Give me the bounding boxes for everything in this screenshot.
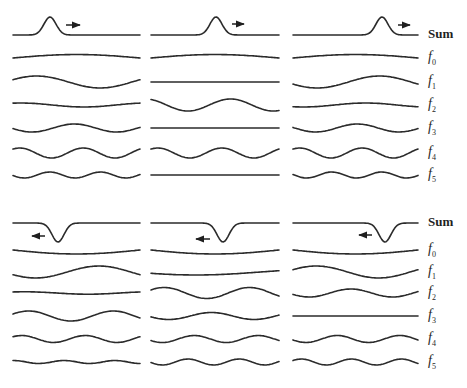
top-f2-curve-col2: [151, 99, 279, 111]
top-f2-curve-col3: [293, 103, 418, 107]
top-label-f5: f5: [428, 167, 436, 187]
label-subscript: 1: [432, 82, 436, 91]
bottom-f4-curve-col1: [13, 336, 140, 343]
top-label-f0: f0: [428, 50, 436, 70]
label-subscript: 3: [432, 316, 436, 325]
label-subscript: 2: [432, 105, 436, 114]
top-label-f1: f1: [428, 74, 436, 94]
top-label-f4: f4: [428, 145, 436, 165]
bottom-label-f4: f4: [428, 331, 436, 351]
top-f0-curve-col1: [13, 55, 140, 59]
top-label-f3: f3: [428, 120, 436, 140]
bottom-f0-curve-col2: [151, 250, 279, 254]
label-subscript: 1: [432, 272, 436, 281]
label-subscript: 0: [432, 250, 436, 259]
bottom-f5-curve-col3: [293, 359, 418, 365]
fourier-pulse-diagram: [0, 0, 467, 388]
bottom-label-f5: f5: [428, 354, 436, 374]
label-subscript: 2: [432, 293, 436, 302]
top-f5-curve-col3: [293, 172, 418, 178]
top-f5-curve-col1: [13, 172, 140, 178]
bottom-f4-curve-col3: [293, 336, 418, 343]
bottom-label-f2: f2: [428, 285, 436, 305]
bottom-f0-curve-col3: [293, 250, 418, 254]
label-subscript: 5: [432, 362, 436, 371]
top-f1-curve-col1: [13, 76, 140, 88]
top-sum-curve-col1: [13, 17, 140, 35]
top-sum-curve-col3: [293, 17, 418, 35]
bottom-f2-curve-col3: [293, 289, 418, 297]
top-f2-curve-col1: [13, 103, 140, 107]
direction-arrows: [32, 24, 410, 239]
top-f1-curve-col3: [293, 76, 418, 88]
bottom-f5-curve-col1: [13, 361, 140, 364]
bottom-f2-curve-col1: [13, 292, 140, 294]
bottom-f4-curve-col2: [151, 336, 279, 343]
top-f0-curve-col3: [293, 55, 418, 59]
bottom-sum-curve-col3: [293, 223, 418, 242]
top-f4-curve-col1: [13, 148, 140, 158]
top-f4-curve-col2: [151, 148, 279, 158]
label-subscript: 3: [432, 128, 436, 137]
bottom-label-sum: Sum: [428, 215, 453, 229]
label-text: Sum: [428, 214, 453, 229]
bottom-f1-curve-col1: [13, 266, 140, 278]
bottom-f1-curve-col3: [293, 266, 418, 278]
bottom-f2-curve-col2: [151, 288, 279, 299]
wave-curves: [13, 17, 418, 365]
label-subscript: 4: [432, 339, 436, 348]
top-f0-curve-col2: [151, 55, 279, 59]
bottom-label-f0: f0: [428, 242, 436, 262]
bottom-f0-curve-col1: [13, 250, 140, 254]
top-f3-curve-col3: [293, 124, 418, 132]
label-subscript: 5: [432, 175, 436, 184]
bottom-f3-curve-col1: [13, 311, 140, 321]
bottom-label-f3: f3: [428, 308, 436, 328]
label-subscript: 4: [432, 153, 436, 162]
top-label-f2: f2: [428, 97, 436, 117]
label-text: Sum: [428, 26, 453, 41]
bottom-f3-curve-col2: [151, 313, 279, 320]
top-f4-curve-col3: [293, 148, 418, 158]
label-subscript: 0: [432, 58, 436, 67]
bottom-f1-curve-col2: [151, 271, 279, 275]
top-f3-curve-col1: [13, 124, 140, 132]
top-label-sum: Sum: [428, 27, 453, 41]
bottom-sum-curve-col1: [13, 223, 140, 242]
bottom-sum-curve-col2: [151, 223, 279, 242]
top-sum-curve-col2: [151, 17, 279, 35]
bottom-f5-curve-col2: [151, 359, 279, 365]
bottom-label-f1: f1: [428, 264, 436, 284]
